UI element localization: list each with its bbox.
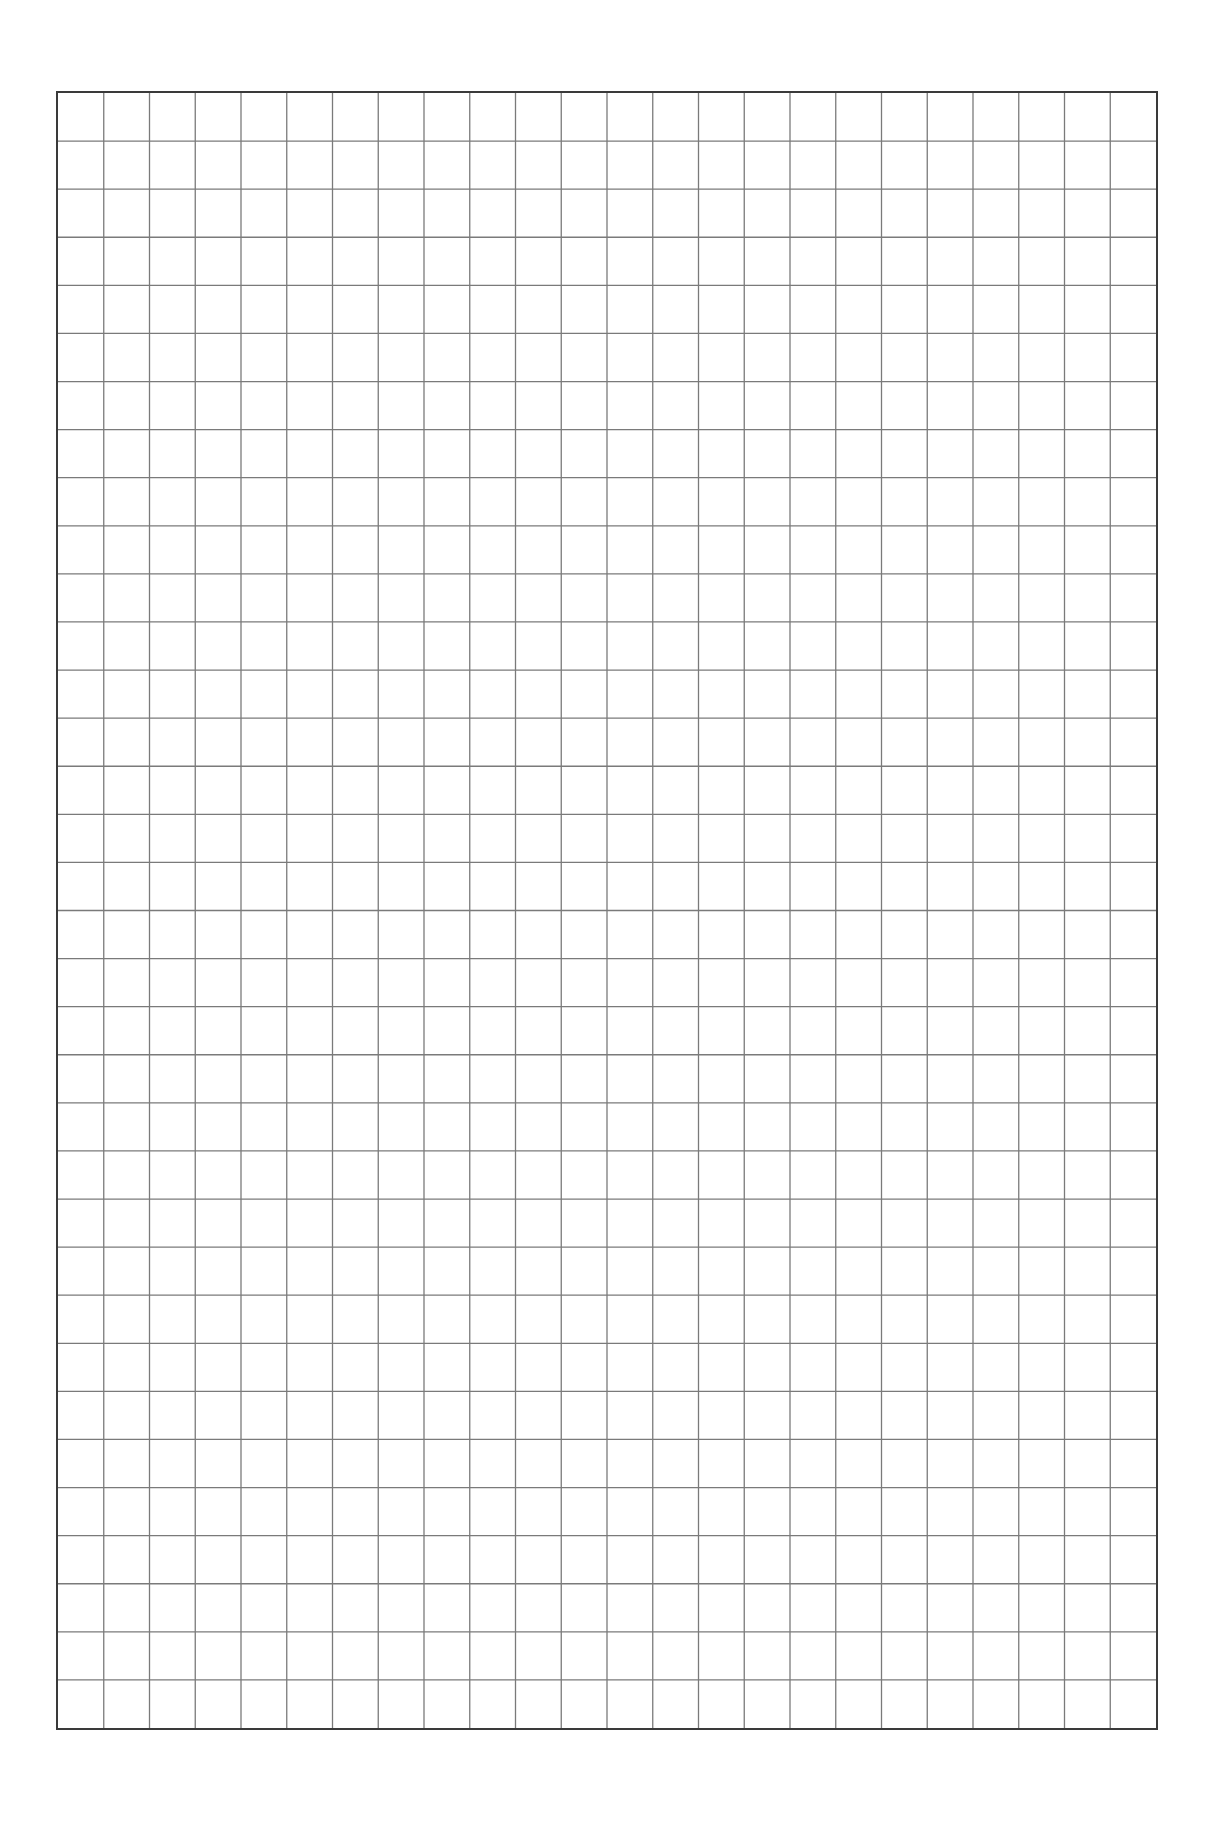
graph-paper-page <box>0 0 1218 1834</box>
grid-lines <box>58 93 1156 1728</box>
grid-sheet <box>56 91 1158 1730</box>
